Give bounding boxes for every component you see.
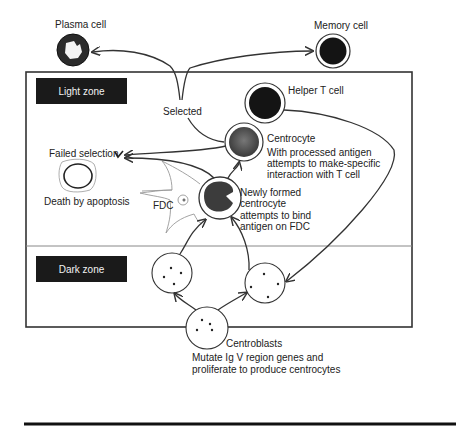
centrocyte-icon <box>225 123 263 161</box>
newly-formed-line-4: antigen on FDC <box>240 221 310 233</box>
newly-formed-centrocyte-icon <box>199 177 241 219</box>
selected-label: Selected <box>163 106 202 118</box>
plasma-cell-icon <box>57 34 89 66</box>
centrocyte-desc-3: interaction with T cell <box>267 169 360 181</box>
apoptosis-label: Death by apoptosis <box>44 196 130 208</box>
arrow-bottom-to-right <box>218 293 246 310</box>
centroblasts-title: Centroblasts <box>226 338 282 350</box>
arrow-centroblast-to-newly-formed <box>180 220 205 254</box>
centroblast-right-icon <box>245 263 285 303</box>
helper-t-cell-icon <box>245 83 285 123</box>
arrow-failed-from-centrocyte <box>126 146 226 155</box>
arrow-newly-to-centrocyte <box>228 163 239 178</box>
centrocyte-title: Centrocyte <box>267 133 315 145</box>
fdc-icon <box>140 161 202 233</box>
apoptotic-cell-icon <box>59 159 96 192</box>
newly-formed-line-3: attempts to bind <box>240 210 311 222</box>
failed-selection-label: Failed selection <box>49 148 118 160</box>
line-centrocyte-to-selected <box>188 118 224 142</box>
memory-cell-label: Memory cell <box>314 20 368 32</box>
centrocyte-desc-2: attempts to make-specific <box>267 158 380 170</box>
arrow-bottom-to-left <box>175 294 196 310</box>
centroblasts-desc-2: proliferate to produce centrocytes <box>192 364 340 376</box>
plasma-cell-label: Plasma cell <box>55 19 106 31</box>
light-zone-tag: Light zone <box>36 78 127 104</box>
centroblasts-desc-1: Mutate Ig V region genes and <box>192 352 323 364</box>
dark-zone-tag: Dark zone <box>36 256 127 282</box>
newly-formed-line-2: centrocyte <box>240 198 286 210</box>
helper-t-cell-label: Helper T cell <box>288 85 344 97</box>
fdc-label: FDC <box>153 200 174 212</box>
newly-formed-line-1: Newly formed <box>240 187 301 199</box>
memory-cell-icon <box>316 34 350 68</box>
centroblast-left-icon <box>152 253 192 293</box>
centrocyte-desc-1: With processed antigen <box>267 147 372 159</box>
centroblast-bottom-icon <box>186 307 228 349</box>
